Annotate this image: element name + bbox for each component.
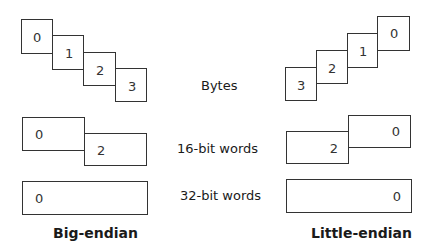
word-address: 2 [330,142,338,156]
word-address: 0 [35,128,43,142]
big-endian-word16-2: 2 [84,133,147,166]
word-address: 0 [35,192,43,206]
little-endian-byte-1: 1 [347,33,378,68]
little-endian-title: Little-endian [311,225,412,241]
big-endian-byte-0: 0 [21,19,53,54]
byte-address: 1 [65,47,73,61]
byte-address: 0 [390,27,398,41]
byte-address: 2 [96,64,104,78]
byte-address: 3 [297,79,305,93]
little-endian-word16-0: 0 [348,115,411,148]
big-endian-byte-1: 1 [52,35,84,70]
word-address: 0 [392,125,400,139]
row-label-bytes: Bytes [201,78,237,94]
byte-address: 0 [33,31,41,45]
big-endian-word32-0: 0 [22,181,148,215]
big-endian-word16-0: 0 [22,117,85,151]
big-endian-byte-3: 3 [115,68,147,102]
byte-address: 3 [128,80,136,94]
little-endian-byte-3: 3 [285,67,317,101]
row-label-16bit-words: 16-bit words [177,141,258,157]
row-label-32bit-words: 32-bit words [180,188,261,204]
little-endian-byte-2: 2 [316,50,348,84]
big-endian-title: Big-endian [53,225,138,241]
little-endian-word32-0: 0 [286,179,412,213]
byte-address: 2 [328,62,336,76]
byte-address: 1 [359,45,367,59]
word-address: 2 [97,144,105,158]
little-endian-byte-0: 0 [377,16,410,51]
big-endian-byte-2: 2 [83,52,116,86]
little-endian-word16-2: 2 [286,131,349,164]
word-address: 0 [393,190,401,204]
